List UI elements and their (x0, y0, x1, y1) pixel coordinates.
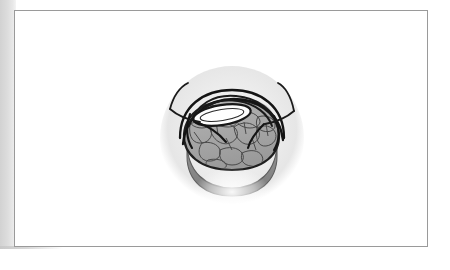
figure-frame (14, 10, 428, 247)
illustration-canvas (156, 64, 308, 216)
vignette-bottom-glow (194, 168, 270, 216)
anatomical-illustration (156, 64, 308, 216)
scanned-figure-page (0, 0, 450, 270)
